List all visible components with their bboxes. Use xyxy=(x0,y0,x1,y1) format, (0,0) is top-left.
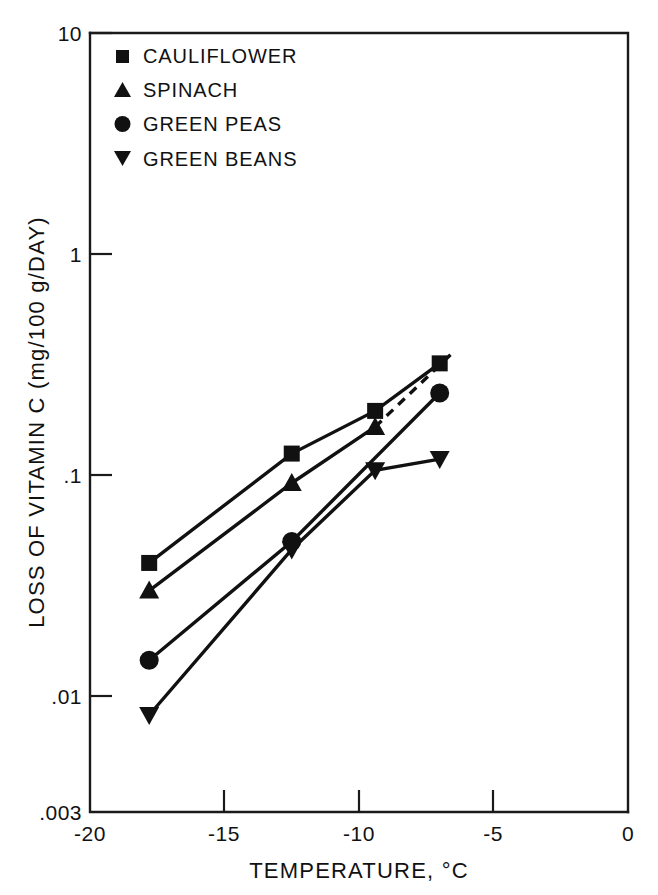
series-spinach xyxy=(139,417,385,599)
y-tick-label-1: 1 xyxy=(70,243,82,266)
square-marker-icon xyxy=(116,50,129,63)
data-point-circle xyxy=(430,383,449,402)
x-tick-label-0: 0 xyxy=(622,822,634,845)
data-point-square xyxy=(367,403,383,419)
x-tick-labels: -20 -15 -10 -5 0 xyxy=(74,822,634,845)
series-green-beans xyxy=(139,451,450,725)
x-tick-label--20: -20 xyxy=(74,822,106,845)
y-axis-ticks xyxy=(90,33,112,696)
legend-label-green-beans: GREEN BEANS xyxy=(143,148,297,170)
x-tick-label--15: -15 xyxy=(208,822,240,845)
series-line xyxy=(149,393,440,660)
data-point-triangle-up xyxy=(282,473,302,491)
y-tick-label-10: 10 xyxy=(58,22,82,45)
legend-label-cauliflower: CAULIFLOWER xyxy=(143,45,297,67)
series-green-peas xyxy=(140,383,450,669)
legend-item-green-peas: GREEN PEAS xyxy=(115,113,283,135)
y-tick-label-0.003: .003 xyxy=(39,801,82,824)
data-point-square xyxy=(284,446,300,462)
legend-label-spinach: SPINACH xyxy=(143,79,238,101)
legend-item-spinach: SPINACH xyxy=(114,79,238,101)
y-axis-title: LOSS OF VITAMIN C (mg/100 g/DAY) xyxy=(24,216,49,628)
x-axis-ticks xyxy=(224,790,493,812)
data-point-square xyxy=(141,555,157,571)
data-point-triangle-down xyxy=(139,707,159,725)
series-line xyxy=(149,459,440,715)
chart-canvas: 10 1 .1 .01 .003 -20 -15 -10 -5 0 TEMPER… xyxy=(0,0,658,895)
legend-label-green-peas: GREEN PEAS xyxy=(143,113,282,135)
x-tick-label--5: -5 xyxy=(483,822,503,845)
triangle-up-marker-icon xyxy=(114,82,131,97)
vitamin-c-loss-chart: 10 1 .1 .01 .003 -20 -15 -10 -5 0 TEMPER… xyxy=(0,0,658,895)
chart-legend: CAULIFLOWER SPINACH GREEN PEAS GREEN BEA… xyxy=(114,45,297,170)
legend-item-green-beans: GREEN BEANS xyxy=(114,148,297,170)
plot-series-layer xyxy=(139,355,450,725)
x-axis-title: TEMPERATURE, °C xyxy=(249,858,469,883)
y-tick-label-0.01: .01 xyxy=(51,685,82,708)
y-tick-label-0.1: .1 xyxy=(63,464,82,487)
circle-marker-icon xyxy=(115,116,131,132)
data-point-circle xyxy=(140,651,159,670)
triangle-down-marker-icon xyxy=(114,151,131,166)
x-tick-label--10: -10 xyxy=(343,822,375,845)
legend-item-cauliflower: CAULIFLOWER xyxy=(116,45,297,67)
